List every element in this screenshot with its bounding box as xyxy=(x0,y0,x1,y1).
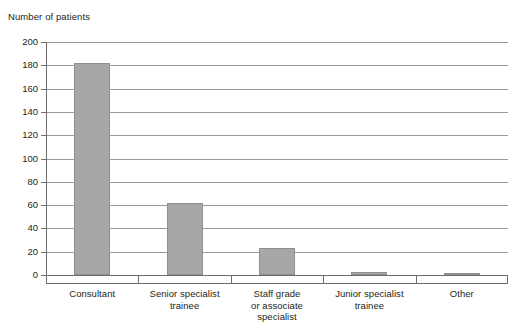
y-axis-tick-label: 40 xyxy=(2,222,38,233)
x-axis-tick-label: Staff gradeor associatespecialist xyxy=(231,288,323,323)
y-axis-tick-label: 60 xyxy=(2,199,38,210)
y-axis-tick-label: 100 xyxy=(2,153,38,164)
y-axis-tick-label: 160 xyxy=(2,83,38,94)
bar[interactable] xyxy=(167,203,203,275)
x-axis-tick-label: Senior specialisttrainee xyxy=(138,288,230,311)
y-axis-tick-label: 0 xyxy=(2,269,38,280)
x-axis-tick-label-line: trainee xyxy=(138,300,230,312)
x-axis-end-cap xyxy=(507,275,508,284)
x-axis-tick-labels: ConsultantSenior specialisttraineeStaff … xyxy=(46,288,508,328)
y-axis-tick-label: 140 xyxy=(2,106,38,117)
x-axis-tick-label-line: Other xyxy=(416,288,508,300)
x-axis-tick-label: Other xyxy=(416,288,508,300)
x-axis-tick xyxy=(231,275,232,284)
bar[interactable] xyxy=(259,248,295,275)
x-axis-tick-label-line: Senior specialist xyxy=(138,288,230,300)
y-axis-tick-labels: 020406080100120140160180200 xyxy=(0,42,38,275)
gridline xyxy=(46,275,508,276)
x-axis-tick-label: Junior specialisttrainee xyxy=(323,288,415,311)
bar-slot xyxy=(323,42,415,275)
x-axis-tick-label-line: Junior specialist xyxy=(323,288,415,300)
x-axis-tick-label-line: Consultant xyxy=(46,288,138,300)
x-axis-line xyxy=(46,283,508,284)
bar-slot xyxy=(138,42,230,275)
bar-slot xyxy=(46,42,138,275)
x-axis-tick-label-line: specialist xyxy=(231,311,323,323)
x-axis-tick-label: Consultant xyxy=(46,288,138,300)
bar[interactable] xyxy=(351,272,387,275)
y-axis-title: Number of patients xyxy=(8,11,90,22)
x-axis-tick xyxy=(46,275,47,284)
bar-slot xyxy=(231,42,323,275)
y-axis-tick-label: 180 xyxy=(2,59,38,70)
y-axis-tick-label: 80 xyxy=(2,176,38,187)
bar-slot xyxy=(416,42,508,275)
bar-chart: Number of patients 020406080100120140160… xyxy=(0,0,525,328)
x-axis-tick xyxy=(138,275,139,284)
bar[interactable] xyxy=(444,273,480,275)
x-axis-tick-label-line: Staff grade xyxy=(231,288,323,300)
x-axis-tick xyxy=(416,275,417,284)
x-axis-tick-label-line: trainee xyxy=(323,300,415,312)
y-axis-tick-label: 200 xyxy=(2,36,38,47)
y-axis-tick-label: 120 xyxy=(2,129,38,140)
y-axis-tick-label: 20 xyxy=(2,246,38,257)
x-axis-tick-label-line: or associate xyxy=(231,300,323,312)
bars-layer xyxy=(46,42,508,275)
x-axis-tick xyxy=(323,275,324,284)
bar[interactable] xyxy=(74,63,110,275)
